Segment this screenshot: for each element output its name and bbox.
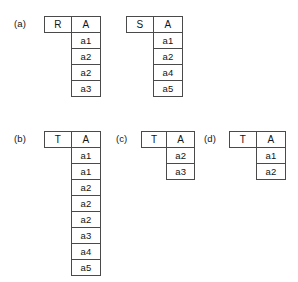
attribute-name-cell: A (257, 132, 286, 148)
spacer-cell (45, 49, 72, 65)
panel-d: (d) T A a1 a2 (195, 120, 298, 210)
data-cell: a3 (167, 164, 195, 180)
spacer-cell (45, 196, 72, 212)
spacer-cell (142, 164, 167, 180)
table-row: a2 (142, 148, 195, 164)
relation-table-s: S A a1 a2 a4 a5 (126, 16, 183, 97)
data-cell: a2 (72, 180, 101, 196)
relation-name-cell: T (142, 132, 167, 148)
spacer-cell (45, 65, 72, 81)
relation-table-r: R A a1 a2 a2 a3 (44, 16, 101, 97)
data-cell: a2 (72, 49, 101, 65)
table-header-row: S A (127, 17, 183, 33)
table-row: a1 (45, 33, 101, 49)
figure-canvas: (a) R A a1 a2 a2 (0, 0, 298, 282)
table-row: a5 (45, 260, 101, 276)
table-row: a1 (45, 164, 101, 180)
relation-name-cell: S (127, 17, 154, 33)
data-cell: a5 (154, 81, 183, 97)
data-cell: a2 (72, 212, 101, 228)
panel-label-b: (b) (14, 133, 26, 144)
spacer-cell (45, 244, 72, 260)
data-cell: a2 (257, 164, 286, 180)
table-row: a2 (45, 49, 101, 65)
data-cell: a1 (154, 33, 183, 49)
panel-a: (a) R A a1 a2 a2 (0, 0, 298, 120)
spacer-cell (45, 33, 72, 49)
spacer-cell (142, 148, 167, 164)
panel-label-d: (d) (204, 133, 216, 144)
table-row: a2 (230, 164, 286, 180)
spacer-cell (45, 180, 72, 196)
attribute-name-cell: A (72, 17, 101, 33)
panel-label-a: (a) (14, 18, 26, 29)
table-row: a3 (142, 164, 195, 180)
table-row: a3 (45, 81, 101, 97)
data-cell: a1 (72, 164, 101, 180)
data-cell: a1 (72, 33, 101, 49)
table-row: a2 (45, 196, 101, 212)
table-header-row: T A (230, 132, 286, 148)
spacer-cell (230, 148, 257, 164)
spacer-cell (127, 33, 154, 49)
relation-name-cell: T (230, 132, 257, 148)
relation-table-t-d: T A a1 a2 (229, 131, 286, 180)
data-cell: a3 (72, 228, 101, 244)
data-cell: a4 (154, 65, 183, 81)
data-cell: a4 (72, 244, 101, 260)
table-header-row: T A (142, 132, 195, 148)
table-row: a2 (45, 212, 101, 228)
panel-c: (c) T A a2 a3 (105, 120, 195, 210)
data-cell: a2 (72, 65, 101, 81)
table-row: a2 (45, 180, 101, 196)
spacer-cell (230, 164, 257, 180)
panel-label-c: (c) (116, 133, 127, 144)
attribute-name-cell: A (72, 132, 101, 148)
data-cell: a3 (72, 81, 101, 97)
relation-table-t-b: T A a1 a1 a2 a2 (44, 131, 101, 276)
spacer-cell (127, 65, 154, 81)
table-row: a2 (127, 49, 183, 65)
data-cell: a2 (154, 49, 183, 65)
data-cell: a2 (72, 196, 101, 212)
spacer-cell (127, 49, 154, 65)
data-cell: a1 (257, 148, 286, 164)
table-header-row: R A (45, 17, 101, 33)
table-row: a1 (127, 33, 183, 49)
table-row: a4 (45, 244, 101, 260)
panel-b: (b) T A a1 a1 a2 (0, 120, 105, 282)
table-row: a1 (45, 148, 101, 164)
spacer-cell (45, 81, 72, 97)
spacer-cell (45, 260, 72, 276)
spacer-cell (45, 228, 72, 244)
attribute-name-cell: A (167, 132, 195, 148)
spacer-cell (127, 81, 154, 97)
table-row: a5 (127, 81, 183, 97)
relation-name-cell: R (45, 17, 72, 33)
spacer-cell (45, 148, 72, 164)
table-row: a3 (45, 228, 101, 244)
data-cell: a5 (72, 260, 101, 276)
spacer-cell (45, 212, 72, 228)
data-cell: a1 (72, 148, 101, 164)
table-header-row: T A (45, 132, 101, 148)
relation-table-t-c: T A a2 a3 (141, 131, 195, 180)
table-row: a1 (230, 148, 286, 164)
attribute-name-cell: A (154, 17, 183, 33)
relation-name-cell: T (45, 132, 72, 148)
table-row: a2 (45, 65, 101, 81)
table-row: a4 (127, 65, 183, 81)
data-cell: a2 (167, 148, 195, 164)
spacer-cell (45, 164, 72, 180)
